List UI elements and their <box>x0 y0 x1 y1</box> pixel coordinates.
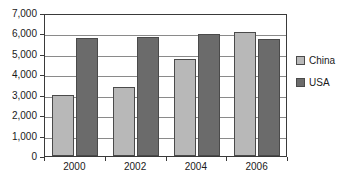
y-axis-tick-label: 1,000 <box>12 132 37 142</box>
x-axis-tick-mark <box>287 157 288 161</box>
y-axis-tick-label: 2,000 <box>12 111 37 121</box>
bar-group <box>45 15 106 156</box>
x-axis-tick-mark <box>166 157 167 161</box>
bar-china-2006 <box>234 32 256 156</box>
y-axis: 01,0002,0003,0004,0005,0006,0007,000 <box>0 0 41 181</box>
y-axis-tick-label: 4,000 <box>12 70 37 80</box>
y-axis-tick-label: 3,000 <box>12 91 37 101</box>
bar-chart: 01,0002,0003,0004,0005,0006,0007,000 200… <box>0 0 343 181</box>
legend-swatch-icon <box>296 56 305 65</box>
bar-usa-2002 <box>137 37 159 156</box>
x-axis: 2000200220042006 <box>44 160 287 181</box>
legend-label: China <box>309 56 335 66</box>
bar-group <box>167 15 228 156</box>
bar-usa-2004 <box>198 34 220 156</box>
bar-usa-2000 <box>76 38 98 156</box>
y-axis-tick-label: 0 <box>31 152 37 162</box>
x-axis-tick-label: 2002 <box>105 162 166 172</box>
legend-item-china: China <box>296 55 343 66</box>
bar-china-2004 <box>174 59 196 156</box>
legend-swatch-icon <box>296 78 305 87</box>
y-axis-tick-label: 7,000 <box>12 9 37 19</box>
plot-area <box>44 14 287 157</box>
legend: ChinaUSA <box>296 55 343 99</box>
x-axis-tick-label: 2004 <box>166 162 227 172</box>
bar-usa-2006 <box>258 39 280 156</box>
x-axis-tick-mark <box>226 157 227 161</box>
x-axis-tick-label: 2006 <box>226 162 287 172</box>
legend-label: USA <box>309 78 330 88</box>
y-axis-tick-label: 6,000 <box>12 29 37 39</box>
y-axis-tick-label: 5,000 <box>12 50 37 60</box>
bar-china-2002 <box>113 87 135 156</box>
bar-group <box>106 15 167 156</box>
legend-item-usa: USA <box>296 77 343 88</box>
bar-group <box>227 15 288 156</box>
x-axis-tick-mark <box>105 157 106 161</box>
bar-china-2000 <box>52 95 74 156</box>
x-axis-tick-label: 2000 <box>44 162 105 172</box>
x-axis-tick-mark <box>44 157 45 161</box>
bars-layer <box>45 15 286 156</box>
